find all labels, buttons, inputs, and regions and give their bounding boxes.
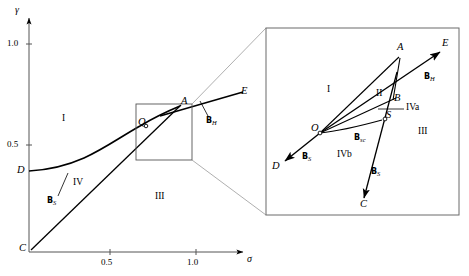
main-label-bs: BS: [47, 196, 56, 205]
main-region-iii: III: [155, 192, 165, 202]
x-tick-label-0: 0.5: [101, 258, 112, 267]
main-axes: [26, 18, 243, 255]
zoom-connector-bottom: [192, 160, 266, 215]
y-tick-label-1: 1.0: [7, 39, 18, 48]
main-point-q: Q: [138, 117, 146, 128]
zoom-connector-top: [192, 28, 266, 104]
inset-point-d: D: [272, 161, 280, 172]
main-point-a: A: [181, 96, 187, 107]
y-tick-label-0: 0.5: [7, 140, 18, 149]
inset-point-s: S: [386, 110, 391, 121]
inset-frame: [266, 28, 459, 215]
inset-point-e: E: [442, 38, 448, 49]
inset-point-o: O: [311, 123, 319, 134]
inset-region-i: I: [327, 85, 330, 95]
inset-region-ivb: IVb: [337, 150, 352, 160]
inset-label-bsc-sub: sc: [360, 136, 365, 143]
inset-label-bs-left: BS: [302, 152, 311, 161]
phase-diagram-figure: γ σ 1.0 0.5 0.5 1.0 C D Q A E I IV III B…: [0, 0, 469, 276]
main-region-i: I: [62, 114, 65, 124]
main-region-iv: IV: [73, 178, 83, 188]
inset-label-bsc: Bsc: [354, 133, 366, 142]
inset-label-bh: BH: [424, 72, 435, 81]
main-label-bh: BH: [206, 116, 217, 125]
inset-point-b: B: [394, 93, 400, 104]
inset-region-iii: III: [418, 127, 428, 137]
main-point-c: C: [19, 243, 26, 254]
inset-label-bh-sub: H: [430, 75, 435, 82]
main-label-bs-sub: S: [53, 199, 56, 206]
inset-label-bs-lower: BS: [371, 167, 380, 176]
inset-label-bs-left-sub: S: [308, 155, 311, 162]
x-axis-label: σ: [247, 254, 252, 264]
x-tick-label-1: 1.0: [187, 258, 198, 267]
main-leader-bs: [58, 173, 68, 196]
inset-region-ii: II: [376, 89, 382, 99]
main-point-d: D: [17, 165, 25, 176]
main-line-ca: [31, 105, 181, 250]
inset-region-iva: IVa: [406, 103, 419, 113]
main-point-e: E: [241, 86, 247, 97]
y-axis-label: γ: [15, 5, 19, 15]
main-curve-bs: [29, 106, 180, 171]
inset-point-a: A: [397, 42, 403, 53]
inset-point-c: C: [360, 199, 367, 210]
inset-label-bs-lower-sub: S: [377, 170, 380, 177]
main-label-bh-sub: H: [212, 119, 217, 126]
